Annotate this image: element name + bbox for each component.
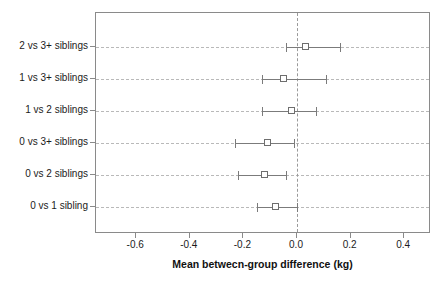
x-axis-tick xyxy=(189,233,190,238)
zero-reference-line xyxy=(297,13,298,232)
y-axis-label-1: 1 vs 3+ siblings xyxy=(19,73,88,83)
error-bar-cap-high xyxy=(294,139,295,148)
error-bar-cap-low xyxy=(286,43,287,52)
x-axis-tick xyxy=(135,233,136,238)
error-bar-line xyxy=(262,79,326,80)
plot-frame xyxy=(95,12,430,233)
x-axis-tick xyxy=(296,233,297,238)
x-axis-tick-label-4: 0.2 xyxy=(343,240,357,250)
point-estimate-marker xyxy=(272,203,279,210)
gridline xyxy=(96,47,429,48)
plot-area xyxy=(96,13,429,232)
point-estimate-marker xyxy=(302,43,309,50)
x-axis-tick-label-5: 0.4 xyxy=(396,240,410,250)
point-estimate-marker xyxy=(280,75,287,82)
point-estimate-marker xyxy=(264,139,271,146)
error-bar-cap-high xyxy=(316,107,317,116)
error-bar-cap-low xyxy=(262,75,263,84)
x-axis-title: Mean betwecn-group difference (kg) xyxy=(95,258,430,270)
error-bar-cap-low xyxy=(257,203,258,212)
error-bar-line xyxy=(286,47,340,48)
y-axis-label-5: 0 vs 1 sibling xyxy=(30,201,88,211)
y-axis-label-0: 2 vs 3+ siblings xyxy=(19,41,88,51)
x-axis-tick-label-1: -0.4 xyxy=(180,240,197,250)
x-axis-tick-label-3: 0.0 xyxy=(289,240,303,250)
y-axis-labels: 2 vs 3+ siblings1 vs 3+ siblings1 vs 2 s… xyxy=(0,12,88,233)
x-axis-tick xyxy=(403,233,404,238)
x-axis-tick xyxy=(242,233,243,238)
error-bar-cap-high xyxy=(340,43,341,52)
y-axis-label-3: 0 vs 3+ siblings xyxy=(19,137,88,147)
error-bar-cap-low xyxy=(238,171,239,180)
error-bar-cap-high xyxy=(297,203,298,212)
point-estimate-marker xyxy=(288,107,295,114)
y-axis-label-4: 0 vs 2 siblings xyxy=(25,169,88,179)
point-estimate-marker xyxy=(261,171,268,178)
forest-plot-figure: 2 vs 3+ siblings1 vs 3+ siblings1 vs 2 s… xyxy=(0,0,443,286)
error-bar-cap-low xyxy=(235,139,236,148)
error-bar-cap-high xyxy=(286,171,287,180)
x-axis-tick-label-0: -0.6 xyxy=(127,240,144,250)
error-bar-cap-low xyxy=(262,107,263,116)
x-axis-tick-label-2: -0.2 xyxy=(234,240,251,250)
error-bar-cap-high xyxy=(326,75,327,84)
y-axis-label-2: 1 vs 2 siblings xyxy=(25,105,88,115)
x-axis-tick xyxy=(350,233,351,238)
